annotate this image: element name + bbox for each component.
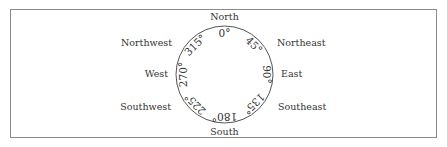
label-west: West: [145, 68, 168, 79]
compass-diagram: North Northeast East Southeast South Sou…: [0, 0, 447, 147]
degree-0: 0°: [219, 27, 231, 39]
degree-270: 270°: [177, 62, 189, 87]
degree-90: 90°: [261, 65, 273, 84]
degree-225: 225°: [182, 91, 208, 117]
label-north: North: [210, 11, 239, 22]
degree-135: 135°: [241, 91, 267, 117]
label-east: East: [281, 68, 302, 79]
label-northwest: Northwest: [121, 37, 172, 48]
degree-315: 315°: [182, 32, 208, 58]
degree-180: 180°: [212, 111, 237, 123]
label-southeast: Southeast: [278, 101, 326, 112]
label-northeast: Northeast: [277, 37, 326, 48]
degree-45: 45°: [243, 34, 265, 56]
label-southwest: Southwest: [120, 101, 171, 112]
label-south: South: [210, 126, 238, 137]
